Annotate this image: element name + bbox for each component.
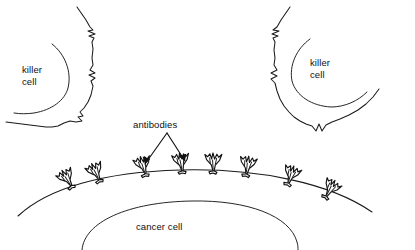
cancer-cell-inner-arc	[82, 201, 298, 250]
antibody	[132, 155, 153, 179]
antibody	[317, 176, 343, 203]
antibody	[237, 155, 258, 179]
immune-response-diagram: killercell killercell antibodies cancer …	[0, 0, 415, 250]
antibodies-label: antibodies	[133, 119, 177, 131]
killer-cell-right-label-line1: killer	[310, 57, 330, 68]
killer-cell-left-membrane	[6, 7, 95, 127]
killer-cell-left-label: killercell	[22, 64, 42, 87]
antibody	[204, 153, 222, 175]
antibody	[55, 166, 80, 192]
diagram-canvas	[0, 0, 415, 250]
antibody	[279, 163, 303, 189]
killer-cell-left-label-line1: killer	[22, 64, 42, 75]
killer-cell-left-label-line2: cell	[22, 76, 37, 87]
cancer-cell-label: cancer cell	[136, 221, 183, 233]
killer-cell-right-label-line2: cell	[310, 69, 325, 80]
antibody	[171, 152, 190, 174]
killer-cell-right-label: killercell	[310, 57, 330, 80]
